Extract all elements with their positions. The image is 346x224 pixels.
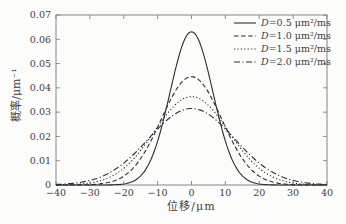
y-tick-label: 0.06 xyxy=(30,34,51,45)
curve-series-2 xyxy=(56,77,327,185)
legend-item: D=1.0 μm²/ms xyxy=(233,29,331,42)
curve-series-3 xyxy=(56,97,327,185)
y-tick-label: 0 xyxy=(45,179,51,190)
legend-item: D=1.5 μm²/ms xyxy=(233,42,331,55)
legend-line-sample-dotted xyxy=(233,44,257,54)
y-axis-label: 概率/μm⁻¹ xyxy=(7,64,21,126)
legend: D=0.5 μm²/msD=1.0 μm²/msD=1.5 μm²/msD=2.… xyxy=(233,16,331,68)
legend-label: D=0.5 μm²/ms xyxy=(261,16,331,29)
legend-line-sample-dashdot xyxy=(233,57,257,67)
diffusion-probability-figure: −40−30−20−1001020304000.010.020.030.040.… xyxy=(0,0,346,224)
legend-item: D=2.0 μm²/ms xyxy=(233,55,331,68)
legend-label: D=1.0 μm²/ms xyxy=(261,29,331,42)
y-tick-label: 0.01 xyxy=(30,155,51,166)
curve-series-4 xyxy=(56,109,327,185)
x-axis-label: 位移/μm xyxy=(56,197,327,213)
legend-line-sample-dashed xyxy=(233,31,257,41)
legend-item: D=0.5 μm²/ms xyxy=(233,16,331,29)
y-tick-label: 0.03 xyxy=(30,106,51,117)
y-tick-label: 0.04 xyxy=(30,82,51,93)
legend-line-sample-solid xyxy=(233,18,257,28)
legend-label: D=1.5 μm²/ms xyxy=(261,42,331,55)
y-tick-label: 0.02 xyxy=(30,131,51,142)
y-tick-label: 0.05 xyxy=(30,58,51,69)
legend-label: D=2.0 μm²/ms xyxy=(261,55,331,68)
y-tick-label: 0.07 xyxy=(30,9,51,20)
